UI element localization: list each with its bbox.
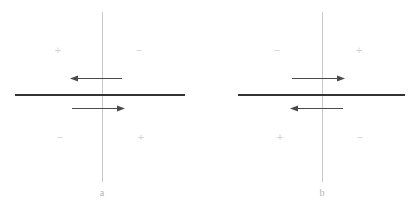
quadrant-sign-upper-right: + [352,45,366,56]
panel-b: −++−b [0,0,413,212]
figure-canvas: +−−+a−++−b [0,0,413,212]
quadrant-sign-lower-left: + [273,132,287,143]
panel-label-b: b [315,188,329,198]
upper-arrow [292,74,345,83]
horizontal-bar-line [238,94,405,96]
vertical-axis-line [322,12,323,182]
lower-arrow [290,104,343,113]
quadrant-sign-lower-right: − [353,132,367,143]
quadrant-sign-upper-left: − [270,45,284,56]
